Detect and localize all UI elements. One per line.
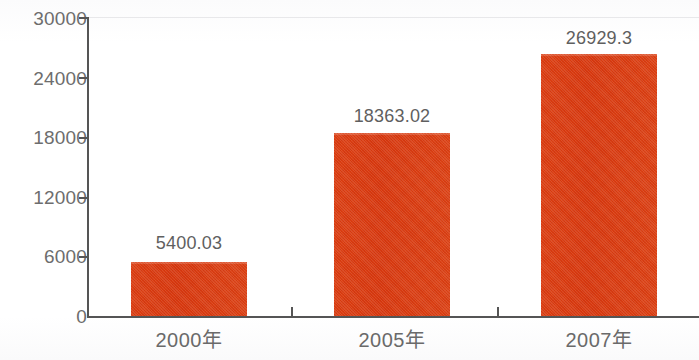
bar-2005	[334, 133, 450, 316]
x-axis-tick-mark	[291, 307, 293, 316]
y-axis-tick-label: 30000	[13, 9, 87, 28]
y-axis-tick-label: 18000	[13, 128, 87, 147]
bar-2000	[131, 262, 247, 316]
y-axis-tick-label: 6000	[13, 247, 87, 266]
y-axis-tick-mark	[79, 256, 88, 258]
y-axis-tick-label: 24000	[13, 69, 87, 88]
y-axis-tick-label: 12000	[13, 188, 87, 207]
x-axis-line	[87, 316, 699, 318]
y-axis-tick-mark	[79, 17, 88, 19]
bar-top-highlight	[131, 262, 247, 264]
bar-value-label-2007: 26929.3	[539, 29, 659, 47]
x-axis-category-label-2000: 2000年	[129, 330, 249, 350]
bar-top-highlight	[334, 133, 450, 135]
x-axis-category-label-2005: 2005年	[332, 330, 452, 350]
bar-value-label-2005: 18363.02	[332, 107, 452, 125]
y-axis-tick-mark	[79, 77, 88, 79]
bar-2007	[541, 54, 657, 316]
y-axis-tick-mark	[79, 197, 88, 199]
bar-value-label-2000: 5400.03	[129, 234, 249, 252]
y-axis-tick-mark	[79, 137, 88, 139]
x-axis-tick-mark	[497, 307, 499, 316]
bar-chart: 30000 24000 18000 12000 6000 0 5400.03 1…	[0, 0, 699, 360]
y-axis-line	[87, 17, 89, 317]
plot-top-gridline	[89, 17, 699, 18]
y-axis-tick-label: 0	[13, 307, 87, 326]
bar-top-highlight	[541, 54, 657, 56]
x-axis-category-label-2007: 2007年	[539, 330, 659, 350]
